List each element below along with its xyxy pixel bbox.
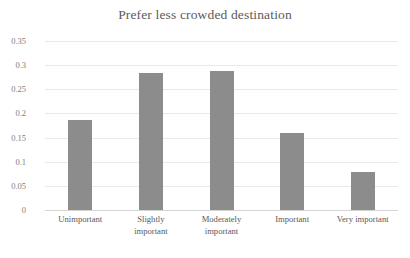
bar [139,73,163,210]
x-axis-category-label: Slightly important [116,214,187,237]
bar [280,133,304,210]
y-axis-tick-label: 0.35 [0,37,26,46]
x-axis-category-label: Important [257,214,328,226]
gridline [45,65,398,66]
x-axis-category-label: Moderately important [186,214,257,237]
y-axis-tick-label: 0.05 [0,182,26,191]
x-axis-baseline [45,210,398,211]
bar [68,120,92,210]
chart-title: Prefer less crowded destination [0,7,410,23]
x-axis-category-label: Unimportant [45,214,116,226]
x-axis-category-label: Very important [327,214,398,226]
y-axis-tick-label: 0.25 [0,85,26,94]
y-axis-tick-label: 0 [0,206,26,215]
plot-area: 00.050.10.150.20.250.30.35 [45,41,398,210]
gridline [45,41,398,42]
bar [351,172,375,210]
y-axis-tick-label: 0.3 [0,61,26,70]
bar-chart-figure: Prefer less crowded destination 00.050.1… [0,0,410,258]
y-axis-tick-label: 0.1 [0,158,26,167]
y-axis-tick-label: 0.2 [0,109,26,118]
bar [210,71,234,210]
y-axis-tick-label: 0.15 [0,134,26,143]
